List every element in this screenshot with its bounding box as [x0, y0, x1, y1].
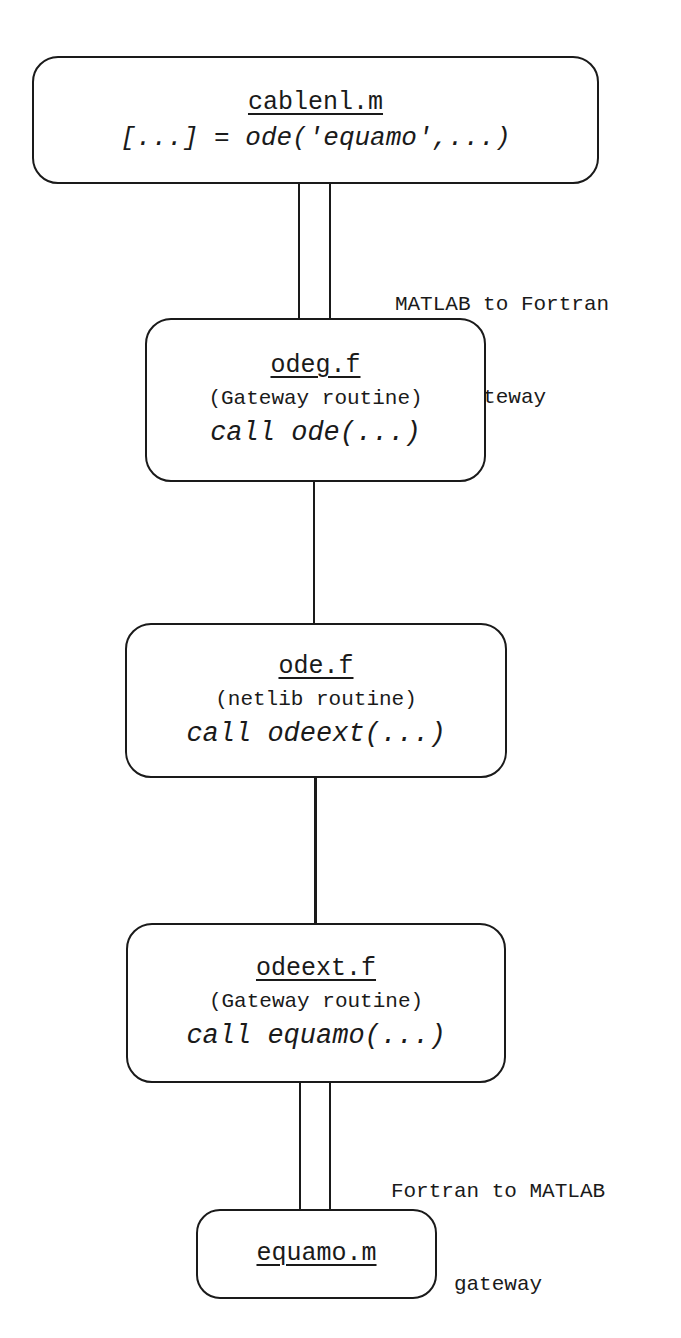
edge-odeext-equamo-line-left [299, 1082, 301, 1210]
node-title: odeext.f [256, 952, 376, 986]
node-call: call odeext(...) [186, 716, 445, 752]
node-equamo: equamo.m [196, 1209, 437, 1299]
node-call: [...] = ode('equamo',...) [120, 120, 510, 156]
node-subtitle: (Gateway routine) [208, 383, 422, 415]
node-title: equamo.m [256, 1237, 376, 1271]
node-ode: ode.f (netlib routine) call odeext(...) [125, 623, 507, 778]
edge-ode-odeext-line [314, 777, 317, 924]
edge-cablenl-odeg-line-right [329, 183, 331, 319]
node-subtitle: (netlib routine) [215, 684, 417, 716]
node-subtitle: (Gateway routine) [209, 986, 423, 1018]
node-call: call ode(...) [210, 415, 421, 451]
node-title: ode.f [278, 650, 353, 684]
node-title: cablenl.m [248, 86, 383, 120]
node-cablenl: cablenl.m [...] = ode('equamo',...) [32, 56, 599, 184]
node-call: call equamo(...) [186, 1018, 445, 1054]
edge-cablenl-odeg-line-left [298, 183, 300, 319]
edge-label-line1: MATLAB to Fortran [352, 289, 652, 320]
edge-odeg-ode-line [313, 481, 315, 624]
node-odeg: odeg.f (Gateway routine) call ode(...) [145, 318, 486, 482]
node-title: odeg.f [270, 349, 360, 383]
node-odeext: odeext.f (Gateway routine) call equamo(.… [126, 923, 506, 1083]
edge-odeext-equamo-line-right [329, 1082, 331, 1210]
edge-label-line1: Fortran to MATLAB [348, 1176, 648, 1207]
